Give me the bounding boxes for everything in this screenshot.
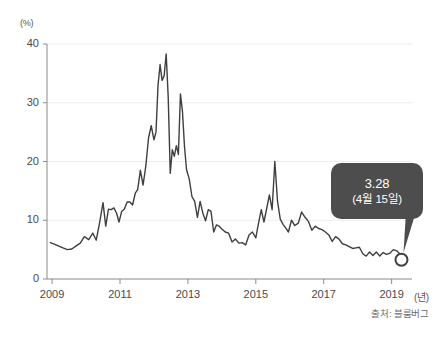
tooltip-date-text: (4월 15일) <box>352 192 402 207</box>
y-tick-label: 30 <box>15 96 39 108</box>
value-callout-tooltip: 3.28 (4월 15일) <box>331 163 423 219</box>
x-tick-label: 2017 <box>304 288 344 300</box>
y-tick-label: 10 <box>15 213 39 225</box>
tooltip-value-text: 3.28 <box>365 176 390 192</box>
end-point-marker <box>395 254 407 266</box>
x-tick-label: 2009 <box>32 288 72 300</box>
source-note: 출처: 블룸버그 <box>371 306 429 320</box>
x-tick-label: 2013 <box>168 288 208 300</box>
y-tick-label: 20 <box>15 155 39 167</box>
y-tick-label: 0 <box>15 272 39 284</box>
chart-container: (%) (년) 010203040 2009201120132015201720… <box>0 0 441 341</box>
x-tick-label: 2011 <box>100 288 140 300</box>
data-line-series <box>50 54 401 260</box>
x-tick-label: 2015 <box>236 288 276 300</box>
y-tick-label: 40 <box>15 37 39 49</box>
x-tick-label: 2019 <box>372 288 412 300</box>
